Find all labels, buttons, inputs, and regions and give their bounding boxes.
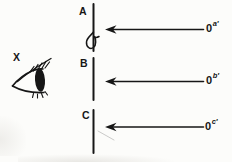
arrow-label-c: 0c′ xyxy=(205,119,217,132)
optics-diagram-figure: X A B C 0a′ 0b′ 0c′ xyxy=(0,0,232,162)
slit-label-a: A xyxy=(79,6,87,17)
arrow-label-b-sup: b′ xyxy=(213,71,219,80)
arrow-b-icon xyxy=(105,77,204,86)
arrow-label-b: 0b′ xyxy=(206,73,219,86)
arrow-label-a: 0a′ xyxy=(206,21,218,34)
observer-label: X xyxy=(13,52,20,63)
scan-artifact-stroke xyxy=(98,131,114,140)
arrow-label-a-sup: a′ xyxy=(213,19,219,28)
slit-label-c: C xyxy=(82,110,90,121)
arrow-label-c-sup: c′ xyxy=(212,117,218,126)
diagram-canvas xyxy=(0,0,232,162)
eye-icon xyxy=(13,59,52,99)
arrow-a-icon xyxy=(105,25,204,34)
arrow-label-b-base: 0 xyxy=(206,74,212,86)
arrow-label-c-base: 0 xyxy=(205,120,211,132)
slit-label-b: B xyxy=(80,58,88,69)
arrow-c-icon xyxy=(105,123,204,132)
arrow-label-a-base: 0 xyxy=(206,22,212,34)
eye-iris xyxy=(34,68,46,92)
